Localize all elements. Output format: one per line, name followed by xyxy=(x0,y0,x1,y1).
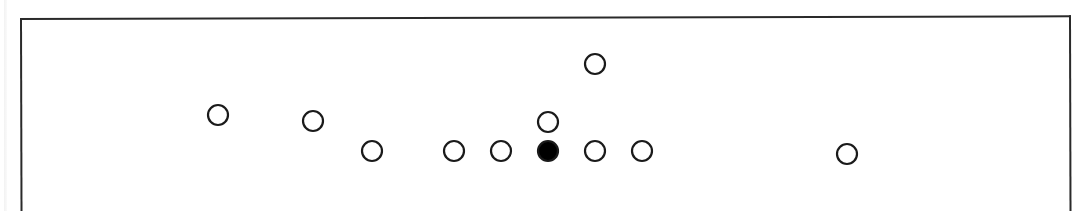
open-circle-marker xyxy=(837,144,857,164)
open-circle-marker xyxy=(303,111,323,131)
player-markers xyxy=(208,54,857,164)
open-circle-marker xyxy=(491,141,511,161)
open-circle-marker xyxy=(632,141,652,161)
open-circle-marker xyxy=(208,105,228,125)
filled-circle-marker xyxy=(538,141,558,161)
open-circle-marker xyxy=(585,54,605,74)
open-circle-marker xyxy=(585,141,605,161)
formation-diagram xyxy=(0,0,1090,211)
open-circle-marker xyxy=(362,141,382,161)
open-circle-marker xyxy=(444,141,464,161)
open-circle-marker xyxy=(538,112,558,132)
